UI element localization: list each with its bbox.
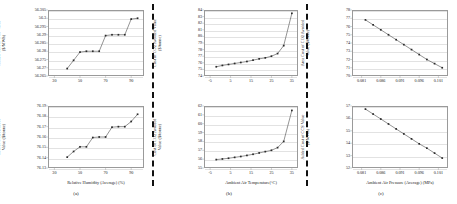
data-point (79, 51, 81, 53)
data-point (130, 121, 132, 123)
data-point (130, 18, 132, 20)
data-point (234, 157, 236, 159)
data-point (137, 17, 139, 19)
data-point (441, 67, 443, 69)
data-point (291, 12, 293, 14)
data-point (118, 126, 120, 128)
data-point (118, 34, 120, 36)
panel-b: 7475767778798081828384-55152535Cost of C… (152, 0, 306, 204)
data-point (277, 147, 279, 149)
data-point (403, 44, 405, 46)
data-point (137, 113, 139, 115)
data-point (246, 155, 248, 157)
data-point (258, 152, 260, 154)
data-point (228, 64, 230, 66)
data-point (73, 151, 75, 153)
data-point (234, 63, 236, 65)
series-a-bottom (0, 96, 152, 196)
data-point (434, 152, 436, 154)
data-point (222, 65, 224, 67)
chart-a-bottom: 76.1376.1476.1576.1676.1776.1876.1930507… (0, 96, 152, 196)
data-point (372, 113, 374, 115)
series-b-bottom (152, 96, 306, 196)
panel-label-b: (b) (226, 191, 232, 196)
data-point (73, 59, 75, 61)
data-point (92, 137, 94, 139)
data-point (111, 34, 113, 36)
data-point (365, 108, 367, 110)
data-point (86, 146, 88, 148)
data-point (215, 159, 217, 161)
data-point (264, 151, 266, 153)
data-point (380, 29, 382, 31)
data-point (66, 156, 68, 158)
sensitivity-analysis-figure: 56.26556.2756.27556.2856.28556.2956.2955… (0, 0, 457, 204)
chart-c-top: 7071727374757677780.0810.0860.0910.0960.… (306, 0, 457, 96)
data-point (380, 118, 382, 120)
series-c-top (306, 0, 457, 96)
data-point (252, 59, 254, 61)
data-point (98, 136, 100, 138)
data-point (86, 50, 88, 52)
data-point (246, 61, 248, 63)
data-point (291, 110, 293, 112)
data-point (271, 55, 273, 57)
data-point (283, 141, 285, 143)
data-point (426, 147, 428, 149)
data-point (441, 157, 443, 159)
data-line (216, 110, 292, 159)
data-point (365, 19, 367, 21)
data-point (277, 53, 279, 55)
panel-label-a: (a) (73, 191, 79, 196)
data-point (79, 146, 81, 148)
data-point (283, 45, 285, 47)
data-point (388, 34, 390, 36)
data-point (264, 57, 266, 59)
data-point (92, 50, 94, 52)
data-point (240, 156, 242, 158)
data-line (67, 18, 137, 68)
series-a-top (0, 0, 152, 96)
data-point (258, 58, 260, 60)
data-point (434, 63, 436, 65)
series-c-bottom (306, 96, 457, 196)
data-point (66, 68, 68, 70)
data-point (124, 126, 126, 128)
data-point (395, 128, 397, 130)
data-point (403, 133, 405, 135)
data-point (411, 138, 413, 140)
data-point (222, 158, 224, 160)
data-point (124, 34, 126, 36)
data-point (105, 136, 107, 138)
series-b-top (152, 0, 306, 96)
data-point (395, 39, 397, 41)
data-point (388, 123, 390, 125)
data-point (411, 49, 413, 51)
data-point (418, 54, 420, 56)
data-point (240, 62, 242, 64)
data-point (228, 157, 230, 159)
panel-c: 7071727374757677780.0810.0860.0910.0960.… (306, 0, 457, 204)
chart-b-bottom: 5556575859606162-55152535Cost of CO2 Avo… (152, 96, 306, 196)
data-point (372, 24, 374, 26)
data-point (215, 66, 217, 68)
panel-a: 56.26556.2756.27556.2856.28556.2956.2955… (0, 0, 152, 204)
data-point (252, 153, 254, 155)
chart-b-top: 7475767778798081828384-55152535Cost of C… (152, 0, 306, 96)
data-point (418, 143, 420, 145)
data-point (271, 149, 273, 151)
data-point (98, 50, 100, 52)
data-line (67, 114, 137, 157)
panel-label-c: (c) (378, 191, 384, 196)
data-point (111, 126, 113, 128)
data-line (216, 13, 292, 66)
chart-a-top: 56.26556.2756.27556.2856.28556.2956.2955… (0, 0, 152, 96)
chart-c-bottom: 5253545556570.0810.0860.0910.0960.101Add… (306, 96, 457, 196)
data-point (105, 35, 107, 37)
data-point (426, 59, 428, 61)
